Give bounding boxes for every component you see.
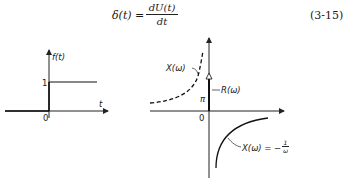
solid-leader: [228, 138, 241, 147]
dashed-leader: [192, 68, 198, 74]
impulse-label: R(ω): [221, 85, 241, 95]
solid-curve-label: X(ω) = −: [242, 143, 281, 153]
left-ylabel: f(t): [52, 52, 65, 62]
left-origin: 0: [43, 113, 48, 123]
pi-label: π: [200, 94, 205, 104]
dashed-curve: [150, 51, 203, 103]
solid-curve-fraction: 1 ω: [282, 139, 289, 154]
solid-frac-num: 1: [282, 139, 289, 146]
figure-graphics: [0, 0, 353, 184]
left-xlabel: t: [99, 99, 102, 109]
solid-frac-den: ω: [282, 147, 289, 154]
dashed-curve-label: X(ω): [166, 63, 186, 73]
impulse-arrow-icon: [206, 73, 212, 79]
left-step-level: 1: [42, 78, 47, 88]
right-plot: [150, 38, 284, 178]
right-origin: 0: [199, 113, 204, 123]
